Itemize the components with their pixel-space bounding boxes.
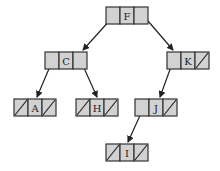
right-pointer-cell (134, 7, 148, 24)
left-pointer-cell (45, 52, 59, 69)
left-pointer-cell (106, 7, 120, 24)
tree-node-h: H (76, 99, 118, 116)
node-label: H (93, 103, 102, 114)
nodes-group: FCKAHJI (14, 7, 209, 161)
node-label: J (153, 103, 158, 114)
tree-node-a: A (14, 99, 56, 116)
node-label: F (124, 11, 131, 22)
right-pointer-cell (73, 52, 87, 69)
left-pointer-cell (167, 52, 181, 69)
tree-node-f: F (106, 7, 148, 24)
tree-node-i: I (106, 144, 148, 161)
left-pointer-cell (135, 99, 149, 116)
node-label: I (125, 148, 129, 159)
tree-node-c: C (45, 52, 87, 69)
tree-node-j: J (135, 99, 177, 116)
tree-node-k: K (167, 52, 209, 69)
edges-group (37, 14, 173, 142)
node-label: K (184, 56, 192, 67)
node-label: C (62, 56, 70, 67)
binary-tree-diagram: FCKAHJI (0, 0, 220, 171)
node-label: A (30, 103, 39, 114)
